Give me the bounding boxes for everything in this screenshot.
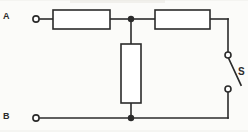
switch-terminal-bottom[interactable]: [225, 86, 231, 92]
junction-node-top: [128, 16, 134, 22]
switch-label-s: S: [238, 67, 245, 77]
terminal-label-b: B: [3, 112, 10, 121]
resistor-r1: [53, 10, 110, 29]
terminal-a-marker[interactable]: [33, 16, 39, 22]
terminal-label-a: A: [3, 12, 10, 21]
junction-node-bottom: [128, 115, 134, 121]
circuit-diagram-canvas: A B S: [0, 0, 248, 132]
resistor-r2: [155, 10, 210, 29]
schematic-svg: [0, 0, 248, 132]
switch-terminal-top[interactable]: [225, 52, 231, 58]
terminal-b-marker[interactable]: [33, 115, 39, 121]
resistor-r3: [121, 44, 141, 103]
